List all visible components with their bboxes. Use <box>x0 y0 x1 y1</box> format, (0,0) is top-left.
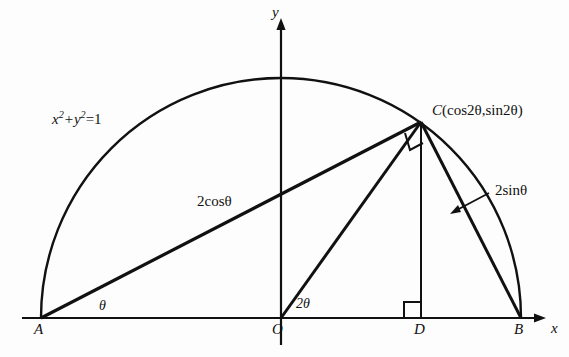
angle-label-theta: θ <box>99 299 106 313</box>
x-axis-label: x <box>551 321 558 336</box>
right-angle-mark-d <box>404 302 421 318</box>
point-label-c-name: C <box>432 102 442 118</box>
leader-line-2sin <box>450 193 489 214</box>
segment-oc <box>281 122 421 318</box>
y-axis-label: y <box>272 5 279 20</box>
segment-label-ac: 2cosθ <box>197 194 232 209</box>
point-label-c-coords: (cos2θ,sin2θ) <box>442 102 523 118</box>
y-axis <box>276 18 285 345</box>
point-label-c: C(cos2θ,sin2θ) <box>432 103 523 118</box>
point-label-o: O <box>272 322 283 337</box>
segment-cb <box>421 122 521 318</box>
segment-label-cb: 2sinθ <box>495 183 527 198</box>
circle-equation-label: x2+y2=1 <box>52 110 102 127</box>
angle-label-two-theta: 2θ <box>296 297 310 311</box>
point-label-b: B <box>514 322 523 337</box>
point-label-a: A <box>34 322 43 337</box>
geometry-figure: y x A O D B C(cos2θ,sin2θ) x2+y2=1 2cosθ… <box>0 0 569 357</box>
eq-plus-y: +y <box>64 111 81 127</box>
eq-x: x <box>52 111 59 127</box>
segment-ac <box>41 122 421 318</box>
diagram-canvas <box>0 0 569 357</box>
eq-tail: =1 <box>86 111 102 127</box>
point-label-d: D <box>414 322 425 337</box>
